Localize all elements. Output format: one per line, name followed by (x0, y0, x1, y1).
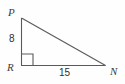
vertex-label-p: P (8, 7, 15, 18)
right-angle-marker-icon (22, 54, 33, 65)
vertex-label-r: R (7, 62, 14, 73)
triangle-outline (21, 18, 106, 66)
side-length-label-horizontal: 15 (59, 68, 70, 78)
triangle-figure: P R N 8 15 (0, 0, 125, 84)
vertex-label-n: N (110, 66, 117, 77)
side-pn-hypotenuse (22, 18, 106, 66)
side-length-label-vertical: 8 (9, 34, 15, 44)
